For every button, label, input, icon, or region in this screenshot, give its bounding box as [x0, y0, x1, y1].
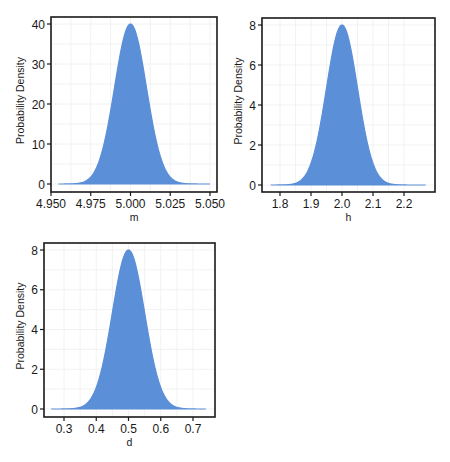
x-tick-label: 2.2: [396, 197, 413, 211]
y-tick-label: 10: [32, 138, 46, 152]
x-axis-label: h: [346, 211, 352, 223]
x-tick-label: 0.6: [152, 422, 169, 436]
y-tick-label: 2: [249, 139, 256, 153]
x-axis-ticks: 0.30.40.50.60.7: [56, 417, 202, 436]
chart-canvas: 4.9504.9755.0005.0255.050 010203040 m Pr…: [0, 0, 450, 462]
x-tick-label: 2.0: [334, 197, 351, 211]
x-tick-label: 0.7: [185, 422, 202, 436]
y-axis-label: Probability Density: [232, 57, 244, 145]
panel-m: 4.9504.9755.0005.0255.050 010203040 m Pr…: [14, 17, 225, 223]
y-tick-label: 20: [32, 98, 46, 112]
y-axis-ticks: 02468: [249, 19, 262, 193]
y-tick-label: 2: [31, 363, 38, 377]
y-tick-label: 6: [31, 283, 38, 297]
x-axis-ticks: 4.9504.9755.0005.0255.050: [36, 192, 225, 211]
y-tick-label: 4: [31, 323, 38, 337]
y-tick-label: 4: [249, 99, 256, 113]
y-axis-label: Probability Density: [14, 282, 26, 370]
y-tick-label: 6: [249, 59, 256, 73]
x-tick-label: 5.000: [115, 197, 145, 211]
x-tick-label: 5.050: [195, 197, 225, 211]
x-tick-label: 0.3: [56, 422, 73, 436]
y-tick-label: 0: [31, 403, 38, 417]
x-axis-label: d: [127, 436, 133, 448]
y-axis-label: Probability Density: [14, 56, 26, 144]
x-tick-label: 4.950: [36, 197, 66, 211]
x-tick-label: 0.4: [88, 422, 105, 436]
panel-d: 0.30.40.50.60.7 02468 d Probability Dens…: [14, 243, 215, 448]
x-tick-label: 5.025: [155, 197, 185, 211]
x-tick-label: 1.8: [272, 197, 289, 211]
y-axis-ticks: 010203040: [32, 18, 51, 192]
y-tick-label: 0: [38, 178, 45, 192]
y-tick-label: 8: [31, 244, 38, 258]
x-tick-label: 0.5: [120, 422, 137, 436]
y-tick-label: 30: [32, 58, 46, 72]
y-tick-label: 8: [249, 19, 256, 33]
x-axis-ticks: 1.81.92.02.12.2: [272, 192, 413, 211]
x-tick-label: 2.1: [365, 197, 382, 211]
x-tick-label: 1.9: [303, 197, 320, 211]
y-axis-ticks: 02468: [31, 244, 44, 417]
x-tick-label: 4.975: [76, 197, 106, 211]
y-tick-label: 0: [249, 179, 256, 193]
x-axis-label: m: [130, 211, 139, 223]
y-tick-label: 40: [32, 18, 46, 32]
panel-h: 1.81.92.02.12.2 02468 h Probability Dens…: [232, 18, 435, 223]
